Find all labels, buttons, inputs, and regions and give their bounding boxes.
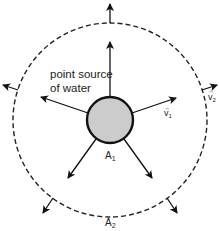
diagram-canvas: point source of water A1 A2 → v1 → v2 (0, 0, 219, 231)
svg-text:v2: v2 (208, 92, 217, 103)
arrow-upper-left-outer (3, 85, 18, 90)
outer-area-label: A2 (105, 217, 116, 229)
inner-area-label: A1 (105, 150, 116, 162)
arrow-lower-right-outer (167, 198, 177, 213)
point-source-circle (87, 97, 133, 143)
arrow-lower-right-inner (124, 139, 152, 178)
outer-velocity-label: → v2 (208, 88, 217, 103)
arrow-upper-left-inner (41, 97, 88, 113)
source-label-line1: point source (50, 68, 113, 80)
arrow-lower-left-outer (43, 198, 53, 213)
svg-text:v1: v1 (164, 108, 173, 119)
inner-velocity-label: → v1 (164, 105, 173, 119)
arrow-lower-left-inner (68, 139, 96, 178)
source-label-line2: of water (50, 82, 91, 94)
